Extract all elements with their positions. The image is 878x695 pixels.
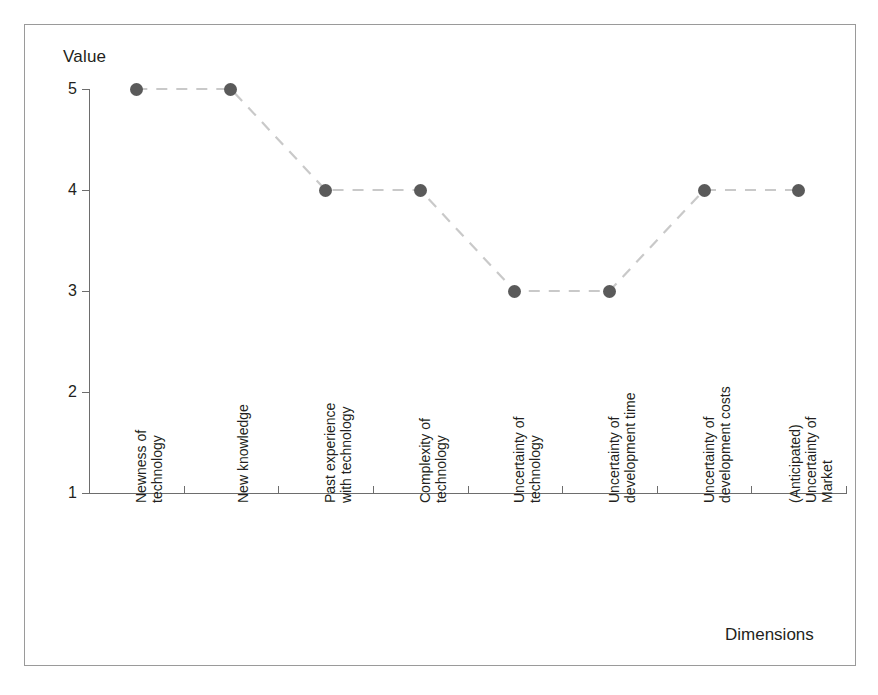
x-axis-tick xyxy=(89,486,90,494)
x-axis-category-label-text: Uncertainty of development time xyxy=(606,392,638,503)
x-axis-tick xyxy=(184,486,185,494)
x-axis-tick xyxy=(562,486,563,494)
x-axis-tick xyxy=(846,486,847,494)
x-axis-tick xyxy=(468,486,469,494)
y-axis-line xyxy=(89,89,90,494)
x-axis-category-label-text: Past experience with technology xyxy=(322,403,354,503)
data-point-marker xyxy=(603,285,616,298)
y-axis-tick xyxy=(82,392,89,393)
data-point-marker xyxy=(698,184,711,197)
x-axis-title: Dimensions xyxy=(725,625,814,645)
chart-figure-frame: Value 12345 Newness of technologyNew kno… xyxy=(24,24,856,666)
chart-plot-area: Value 12345 Newness of technologyNew kno… xyxy=(25,25,857,667)
y-axis-tick xyxy=(82,291,89,292)
x-axis-category-label-text: Uncertainty of development costs xyxy=(701,386,733,503)
y-axis-tick-label: 1 xyxy=(49,485,77,501)
data-point-marker xyxy=(792,184,805,197)
y-axis-tick-label: 4 xyxy=(49,182,77,198)
data-point-marker xyxy=(508,285,521,298)
x-axis-tick xyxy=(278,486,279,494)
y-axis-tick xyxy=(82,493,89,494)
y-axis-tick-label: 3 xyxy=(49,283,77,299)
x-axis-category-label-text: Complexity of technology xyxy=(417,418,449,503)
x-axis-category-label-text: (Anticipated) Uncertainty of Market xyxy=(787,417,835,503)
x-axis-tick xyxy=(373,486,374,494)
data-line-layer xyxy=(25,25,857,667)
x-axis-tick xyxy=(751,486,752,494)
x-axis-category-label-text: Newness of technology xyxy=(133,430,165,503)
x-axis-category-label-text: Uncertainty of technology xyxy=(511,417,543,503)
data-point-marker xyxy=(224,83,237,96)
x-axis-tick xyxy=(657,486,658,494)
y-axis-tick-label: 5 xyxy=(49,81,77,97)
data-point-marker xyxy=(414,184,427,197)
y-axis-tick xyxy=(82,89,89,90)
y-axis-tick-label: 2 xyxy=(49,384,77,400)
data-point-marker xyxy=(319,184,332,197)
y-axis-title: Value xyxy=(63,47,106,67)
y-axis-tick xyxy=(82,190,89,191)
x-axis-category-label-text: New knowledge xyxy=(235,404,251,503)
data-point-marker xyxy=(130,83,143,96)
